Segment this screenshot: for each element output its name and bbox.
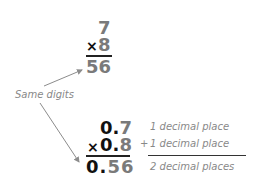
- bottom-factor2-whole: 0.: [100, 134, 119, 155]
- notes-divider: [148, 155, 246, 156]
- note-1-decimal-place-b: 1 decimal place: [150, 138, 229, 149]
- bottom-factor2: 0.8: [100, 136, 132, 154]
- same-digits-label: Same digits: [15, 89, 74, 100]
- bottom-product-whole: 0.: [86, 156, 107, 177]
- plus-sign: +: [140, 138, 148, 149]
- bottom-product: 0.56: [86, 158, 134, 176]
- bottom-product-digits: 56: [107, 156, 134, 177]
- top-product: 56: [86, 58, 111, 76]
- arrow-down-to-056: [40, 103, 79, 162]
- bottom-factor2-digit: 8: [119, 134, 132, 155]
- top-factor2: 8: [98, 36, 111, 54]
- arrow-up-to-56: [44, 70, 82, 86]
- note-2-decimal-places: 2 decimal places: [150, 161, 234, 172]
- note-1-decimal-place-a: 1 decimal place: [150, 121, 229, 132]
- bottom-times-sign: ×: [87, 138, 99, 156]
- top-times-sign: ×: [86, 37, 98, 55]
